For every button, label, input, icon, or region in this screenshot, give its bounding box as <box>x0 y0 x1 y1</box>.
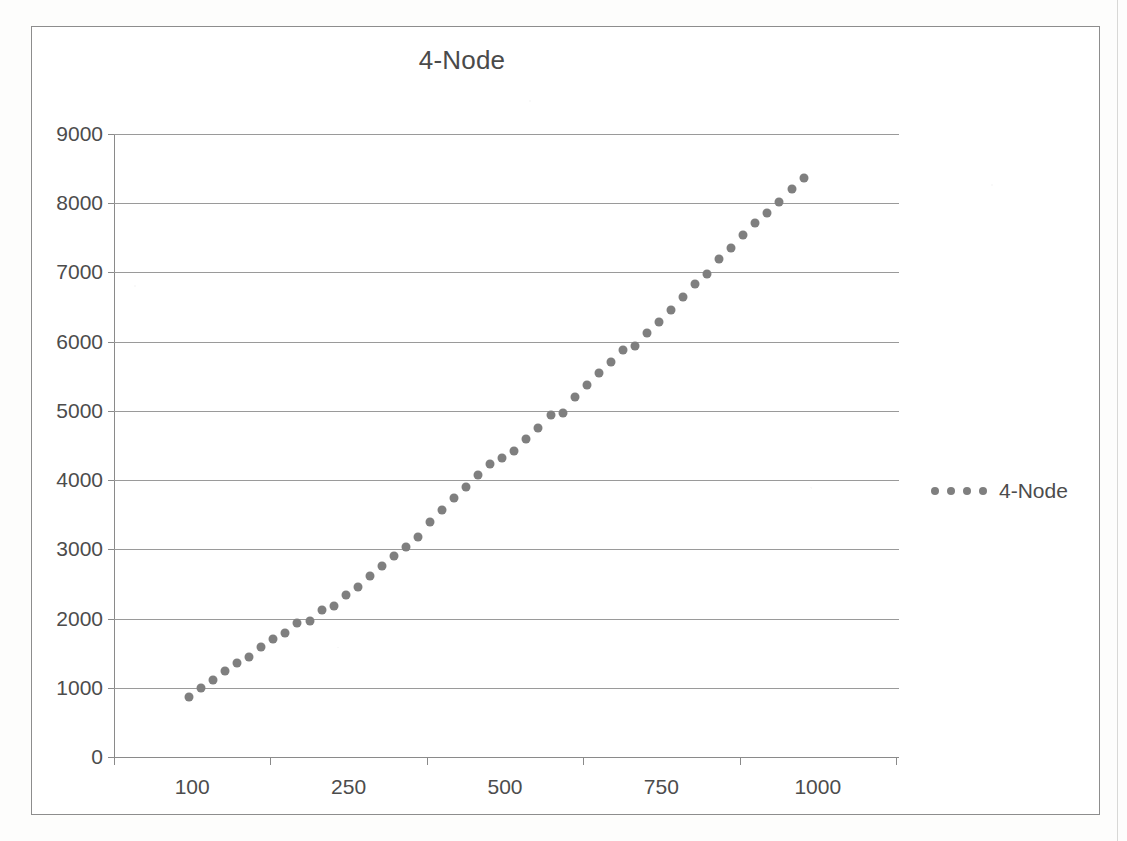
legend-dot-icon <box>947 487 955 495</box>
data-point <box>438 505 447 514</box>
data-point <box>426 518 435 527</box>
data-point <box>654 318 663 327</box>
data-point <box>799 173 808 182</box>
x-axis-tick-label: 100 <box>175 775 210 799</box>
data-point <box>763 208 772 217</box>
data-point <box>534 423 543 432</box>
x-axis-tick-label: 500 <box>487 775 522 799</box>
chart-legend: 4-Node <box>931 479 1068 503</box>
data-point <box>570 393 579 402</box>
y-axis-tick-label: 9000 <box>56 122 103 146</box>
data-point <box>377 561 386 570</box>
scanned-page: 4-Node 010002000300040005000600070008000… <box>0 0 1127 841</box>
data-point <box>450 494 459 503</box>
data-point <box>209 676 218 685</box>
y-axis-tick-mark <box>108 688 114 689</box>
data-point <box>245 652 254 661</box>
data-point <box>703 269 712 278</box>
data-point <box>667 305 676 314</box>
y-axis-tick-label: 6000 <box>56 330 103 354</box>
value-axis-line <box>114 134 115 757</box>
data-point <box>787 185 796 194</box>
y-axis-tick-label: 0 <box>91 745 103 769</box>
legend-marker-icon <box>931 487 987 495</box>
data-point <box>305 617 314 626</box>
data-point <box>594 368 603 377</box>
data-point <box>341 591 350 600</box>
y-axis-tick-label: 8000 <box>56 191 103 215</box>
x-axis-tick-label: 250 <box>331 775 366 799</box>
data-point <box>606 357 615 366</box>
data-point <box>329 602 338 611</box>
y-axis-tick-mark <box>108 342 114 343</box>
y-axis-tick-mark <box>108 411 114 412</box>
y-axis-tick-label: 5000 <box>56 399 103 423</box>
data-point <box>257 642 266 651</box>
page-edge-line <box>1117 0 1118 841</box>
x-axis-tick-mark <box>583 757 584 765</box>
data-point <box>510 447 519 456</box>
gridline <box>114 688 899 689</box>
data-point <box>389 552 398 561</box>
x-axis-tick-mark <box>896 757 897 765</box>
category-axis-line <box>114 757 899 758</box>
data-point <box>365 571 374 580</box>
x-axis-tick-mark <box>270 757 271 765</box>
y-axis-tick-mark <box>108 203 114 204</box>
legend-dot-icon <box>931 487 939 495</box>
data-point <box>185 692 194 701</box>
gridline <box>114 619 899 620</box>
x-axis-tick-label: 1000 <box>794 775 841 799</box>
chart-title: 4-Node <box>32 45 892 76</box>
gridline <box>114 272 899 273</box>
gridline <box>114 342 899 343</box>
data-point <box>353 583 362 592</box>
data-point <box>462 483 471 492</box>
gridline <box>114 134 899 135</box>
x-axis-tick-mark <box>114 757 115 765</box>
data-point <box>281 629 290 638</box>
gridline <box>114 480 899 481</box>
y-axis-tick-mark <box>108 134 114 135</box>
data-point <box>221 667 230 676</box>
data-point <box>582 380 591 389</box>
y-axis-tick-mark <box>108 619 114 620</box>
data-point <box>618 345 627 354</box>
y-axis-tick-label: 4000 <box>56 468 103 492</box>
data-point <box>269 635 278 644</box>
data-point <box>401 543 410 552</box>
data-point <box>727 243 736 252</box>
x-axis-tick-mark <box>427 757 428 765</box>
data-point <box>293 619 302 628</box>
data-point <box>739 231 748 240</box>
y-axis-tick-label: 1000 <box>56 676 103 700</box>
data-point <box>751 219 760 228</box>
data-point <box>197 683 206 692</box>
gridline <box>114 549 899 550</box>
chart-frame: 4-Node 010002000300040005000600070008000… <box>31 26 1100 815</box>
x-axis-tick-label: 750 <box>644 775 679 799</box>
data-point <box>630 341 639 350</box>
y-axis-tick-mark <box>108 480 114 481</box>
x-axis-tick-mark <box>740 757 741 765</box>
plot-area: 0100020003000400050006000700080009000 10… <box>114 134 899 757</box>
data-point <box>679 292 688 301</box>
data-point <box>498 453 507 462</box>
gridline <box>114 411 899 412</box>
y-axis-tick-mark <box>108 272 114 273</box>
data-point <box>474 471 483 480</box>
data-point <box>642 328 651 337</box>
data-point <box>413 532 422 541</box>
legend-dot-icon <box>963 487 971 495</box>
y-axis-tick-label: 7000 <box>56 260 103 284</box>
data-point <box>546 411 555 420</box>
data-point <box>558 408 567 417</box>
y-axis-tick-mark <box>108 549 114 550</box>
legend-dot-icon <box>979 487 987 495</box>
y-axis-tick-label: 3000 <box>56 537 103 561</box>
data-point <box>317 606 326 615</box>
legend-item-label: 4-Node <box>999 479 1068 503</box>
data-point <box>233 658 242 667</box>
data-point <box>715 254 724 263</box>
data-point <box>691 280 700 289</box>
